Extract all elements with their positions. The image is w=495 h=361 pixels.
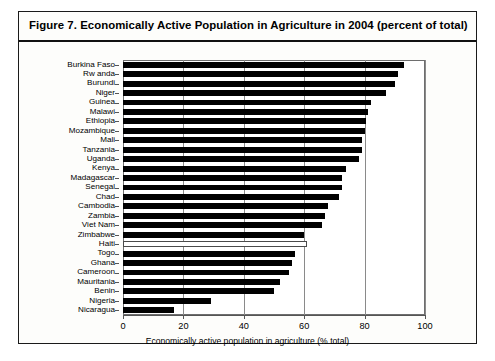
y-label-malawi: Malawi (90, 108, 115, 116)
y-label-tanzania: Tanzania (83, 146, 115, 154)
x-tick-label-100: 100 (405, 321, 445, 331)
bar-senegal (123, 185, 342, 191)
y-tick (115, 291, 119, 292)
bar-row (123, 118, 425, 124)
bar-row (123, 260, 425, 266)
bar-togo (123, 251, 295, 257)
y-tick (115, 263, 119, 264)
y-tick (115, 121, 119, 122)
y-label-viet-nam: Viet Nam (82, 221, 115, 229)
y-label-cambodia: Cambodia (78, 202, 115, 210)
bar-row (123, 147, 425, 153)
y-axis-category-labels: Burkina FasoRw andaBurundiNigerGuineaMal… (19, 60, 119, 315)
y-tick (115, 159, 119, 160)
y-tick (115, 93, 119, 94)
y-tick (115, 310, 119, 311)
y-label-zimbabwe: Zimbabwe (78, 231, 115, 239)
y-label-burkina-faso: Burkina Faso (67, 61, 115, 69)
y-tick (115, 140, 119, 141)
y-label-niger: Niger (96, 89, 115, 97)
bar-row (123, 288, 425, 294)
bar-tanzania (123, 147, 362, 153)
x-tick-label-0: 0 (103, 321, 143, 331)
bar-benin (123, 288, 274, 294)
bar-row (123, 251, 425, 257)
plot-area (123, 60, 425, 315)
y-tick (115, 301, 119, 302)
y-tick (115, 103, 119, 104)
y-label-senegal: Senegal (85, 183, 115, 191)
y-label-zambia: Zambia (88, 212, 115, 220)
x-tick-0 (123, 315, 124, 319)
x-tick-80 (365, 315, 366, 319)
bar-row (123, 62, 425, 68)
y-tick (115, 178, 119, 179)
x-tick-100 (425, 315, 426, 319)
bar-row (123, 90, 425, 96)
bar-row (123, 128, 425, 134)
bar-kenya (123, 166, 346, 172)
bar-row (123, 175, 425, 181)
bar-cambodia (123, 203, 328, 209)
bar-ethiopia (123, 118, 366, 124)
bar-madagascar (123, 175, 342, 181)
x-tick-label-60: 60 (284, 321, 324, 331)
bar-row (123, 185, 425, 191)
bar-malawi (123, 109, 368, 115)
y-tick (115, 216, 119, 217)
x-axis-line (123, 315, 425, 316)
bar-row (123, 137, 425, 143)
x-axis-title: Economically active population in agricu… (19, 336, 476, 346)
bar-row (123, 81, 425, 87)
y-tick (115, 206, 119, 207)
bar-row (123, 213, 425, 219)
bar-zambia (123, 213, 325, 219)
y-label-mauritania: Mauritania (77, 278, 115, 286)
y-tick (115, 225, 119, 226)
bar-row (123, 232, 425, 238)
bar-mauritania (123, 279, 280, 285)
bar-series (123, 60, 425, 315)
y-tick (115, 169, 119, 170)
y-label-kenya: Kenya (92, 164, 115, 172)
y-tick (115, 197, 119, 198)
bar-row (123, 71, 425, 77)
bar-row (123, 307, 425, 313)
bar-uganda (123, 156, 359, 162)
y-label-nicaragua: Nicaragua (78, 306, 115, 314)
bar-nigeria (123, 298, 211, 304)
figure-frame: Figure 7. Economically Active Population… (18, 11, 477, 344)
y-tick (115, 254, 119, 255)
y-label-ghana: Ghana (91, 259, 115, 267)
bar-row (123, 109, 425, 115)
x-tick-label-20: 20 (163, 321, 203, 331)
bar-rw-anda (123, 71, 398, 77)
bar-row (123, 166, 425, 172)
x-tick-20 (183, 315, 184, 319)
bar-burkina-faso (123, 62, 404, 68)
figure-title-bar: Figure 7. Economically Active Population… (19, 12, 476, 42)
y-label-benin: Benin (94, 287, 115, 295)
bar-mali (123, 137, 362, 143)
y-label-cameroon: Cameroon (77, 268, 115, 276)
y-tick (115, 244, 119, 245)
bar-row (123, 270, 425, 276)
bar-row (123, 156, 425, 162)
bar-zimbabwe (123, 232, 304, 238)
bar-guinea (123, 100, 371, 106)
y-label-togo: Togo (97, 249, 115, 257)
bar-row (123, 194, 425, 200)
y-tick (115, 273, 119, 274)
bar-row (123, 279, 425, 285)
y-tick (115, 84, 119, 85)
bar-cameroon (123, 270, 289, 276)
bar-row (123, 222, 425, 228)
y-label-mozambique: Mozambique (69, 127, 115, 135)
y-label-chad: Chad (96, 193, 115, 201)
y-label-uganda: Uganda (87, 155, 115, 163)
y-tick (115, 150, 119, 151)
x-tick-label-80: 80 (345, 321, 385, 331)
bar-row (123, 203, 425, 209)
x-tick-label-40: 40 (224, 321, 264, 331)
bar-burundi (123, 81, 395, 87)
